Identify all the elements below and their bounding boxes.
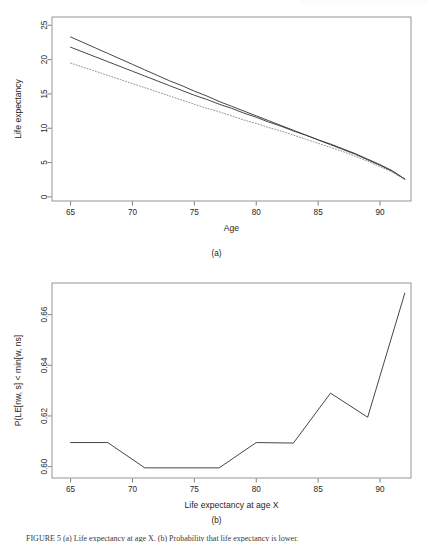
x-tick-label: 65 xyxy=(66,485,76,494)
y-tick-label: 15 xyxy=(40,89,49,99)
x-tick-label: 70 xyxy=(128,208,138,217)
x-tick-label: 65 xyxy=(66,208,76,217)
y-tick-label: 25 xyxy=(40,20,49,30)
y-tick-label: 10 xyxy=(40,123,49,133)
y-tick-label: 20 xyxy=(40,55,49,65)
series-lower-solid xyxy=(71,47,405,179)
y-tick-label: 0.66 xyxy=(40,306,49,322)
x-axis-title: Life expectancy at age X xyxy=(184,500,278,510)
series-probability xyxy=(71,293,405,468)
plot-box xyxy=(52,283,411,478)
probability-chart: 6570758085900.600.620.640.66Life expecta… xyxy=(0,270,433,510)
x-axis-title: Age xyxy=(224,223,240,233)
y-tick-label: 0.62 xyxy=(40,408,49,424)
y-axis-title: P(LE[nw, s] < min[w, ns] xyxy=(13,335,23,426)
x-tick-label: 90 xyxy=(375,485,385,494)
x-tick-label: 80 xyxy=(252,208,262,217)
life-expectancy-chart: 6570758085900510152025AgeLife expectancy xyxy=(0,0,433,248)
figure-page: 6570758085900510152025AgeLife expectancy… xyxy=(0,0,433,542)
plot-box xyxy=(52,17,411,201)
chart-panel-a: 6570758085900510152025AgeLife expectancy xyxy=(0,0,433,270)
panel-a-caption: (a) xyxy=(0,249,433,258)
panel-b-caption: (b) xyxy=(0,516,433,525)
series-upper-solid xyxy=(71,37,405,179)
series-dotted xyxy=(71,63,405,180)
y-axis-title: Life expectancy xyxy=(13,78,23,138)
x-tick-label: 80 xyxy=(252,485,262,494)
y-tick-label: 0 xyxy=(40,194,49,199)
x-tick-label: 75 xyxy=(190,208,200,217)
chart-panel-b: 6570758085900.600.620.640.66Life expecta… xyxy=(0,270,433,518)
x-tick-label: 70 xyxy=(128,485,138,494)
y-tick-label: 5 xyxy=(40,160,49,165)
y-tick-label: 0.64 xyxy=(40,357,49,373)
x-tick-label: 90 xyxy=(375,208,385,217)
x-tick-label: 75 xyxy=(190,485,200,494)
x-tick-label: 85 xyxy=(314,485,324,494)
figure-caption: FIGURE 5 (a) Life expectancy at age X. (… xyxy=(26,534,426,542)
x-tick-label: 85 xyxy=(314,208,324,217)
y-tick-label: 0.60 xyxy=(40,458,49,474)
